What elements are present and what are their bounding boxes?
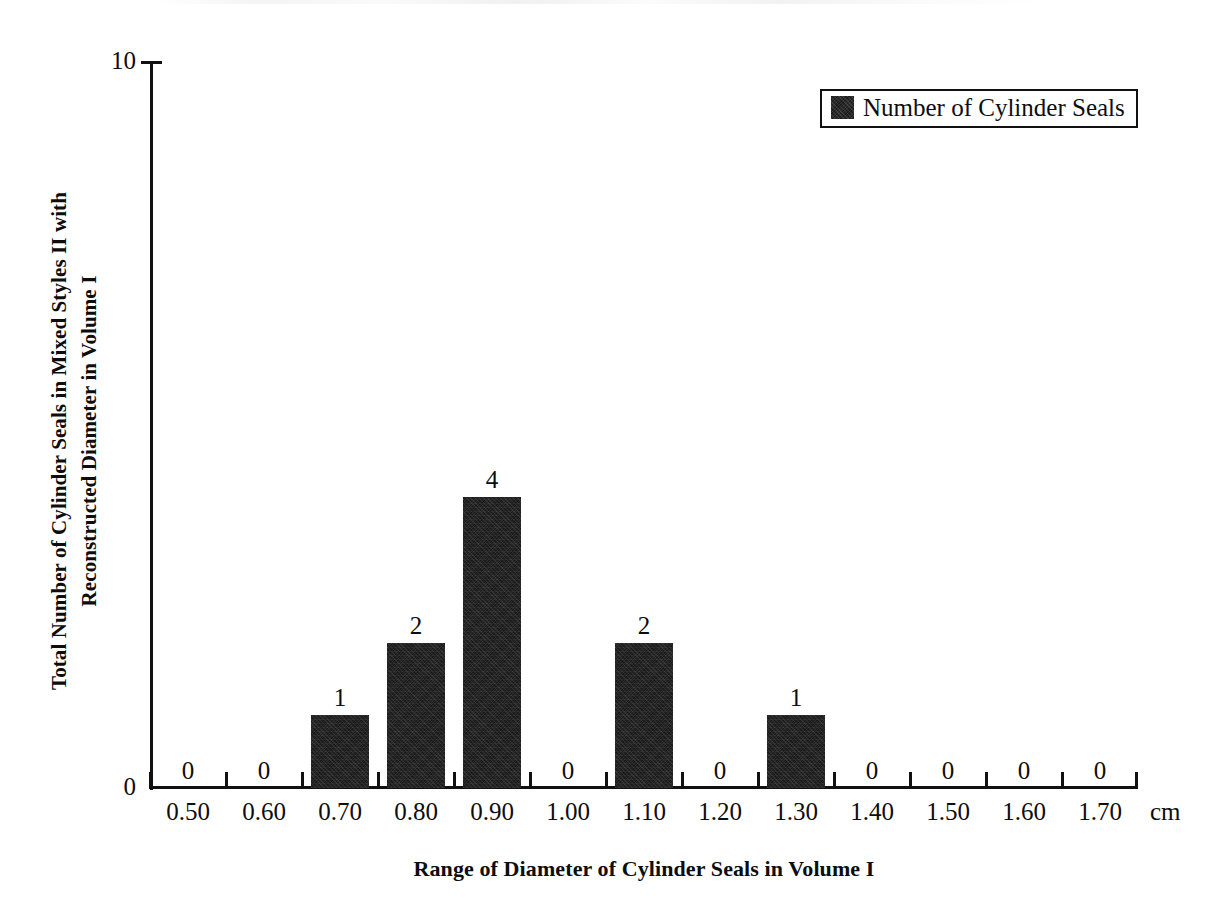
- legend-swatch-icon: [831, 96, 854, 119]
- x-axis-title: Range of Diameter of Cylinder Seals in V…: [150, 856, 1138, 882]
- bar-value-label: 0: [150, 758, 226, 783]
- bar-value-label: 2: [378, 613, 454, 638]
- scan-artifact-band: [150, 0, 1050, 4]
- x-axis-tick-label: 1.20: [682, 798, 758, 826]
- y-axis-title-line-2: Reconstructed Diameter in Volume I: [74, 71, 104, 811]
- x-axis-tick-label: 0.70: [302, 798, 378, 826]
- y-axis-title: Total Number of Cylinder Seals in Mixed …: [44, 71, 104, 811]
- bar-value-label: 1: [758, 685, 834, 710]
- x-axis-unit-label: cm: [1150, 798, 1181, 826]
- y-tick-label-min-text: 0: [124, 773, 137, 800]
- bar-value-label: 0: [1062, 758, 1138, 783]
- bar-chart: 10 0 0012402010000 0.500.600.700.800.901…: [0, 0, 1214, 901]
- y-axis-title-line-1: Total Number of Cylinder Seals in Mixed …: [44, 71, 74, 811]
- bar-value-label: 2: [606, 613, 682, 638]
- bar-value-label: 0: [530, 758, 606, 783]
- y-tick-label-max: 10: [88, 48, 136, 73]
- bar: [463, 497, 520, 788]
- bar: [615, 643, 672, 788]
- bar-value-label: 0: [682, 758, 758, 783]
- y-tick-label-max-text: 10: [111, 47, 136, 74]
- x-axis-tick-label: 1.10: [606, 798, 682, 826]
- x-axis-tick-label: 1.30: [758, 798, 834, 826]
- bars-layer: [150, 61, 1138, 788]
- x-axis-tick-label: 1.00: [530, 798, 606, 826]
- x-axis-tick-label: 0.90: [454, 798, 530, 826]
- x-axis-tick-label: 1.70: [1062, 798, 1138, 826]
- bar: [767, 715, 824, 788]
- bar-value-label: 0: [834, 758, 910, 783]
- bar-value-label: 0: [226, 758, 302, 783]
- bar-value-label: 1: [302, 685, 378, 710]
- chart-legend: Number of Cylinder Seals: [820, 89, 1138, 128]
- bar-value-label: 0: [986, 758, 1062, 783]
- x-axis-tick-label: 0.60: [226, 798, 302, 826]
- bar-value-label: 4: [454, 467, 530, 492]
- bar: [311, 715, 368, 788]
- legend-entry-label: Number of Cylinder Seals: [863, 94, 1125, 121]
- x-axis-tick-label: 1.40: [834, 798, 910, 826]
- x-axis-tick-label: 1.50: [910, 798, 986, 826]
- bar: [387, 643, 444, 788]
- bar-value-label: 0: [910, 758, 986, 783]
- x-axis-tick-label: 0.50: [150, 798, 226, 826]
- x-axis-tick-label: 1.60: [986, 798, 1062, 826]
- x-axis-tick-label: 0.80: [378, 798, 454, 826]
